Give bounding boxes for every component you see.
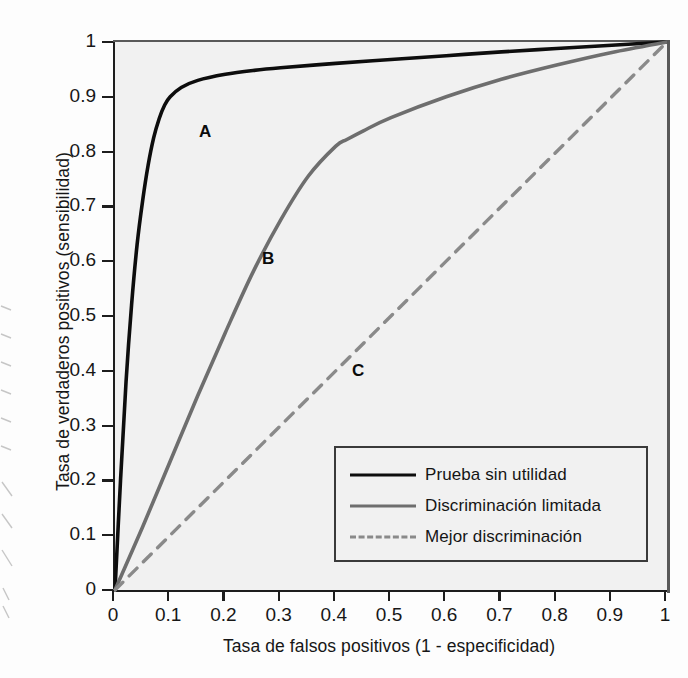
x-tick-label: 0 <box>83 604 143 626</box>
x-tick-mark <box>167 590 169 601</box>
y-tick-mark <box>102 534 113 536</box>
y-tick-mark <box>102 41 113 43</box>
y-tick-label: 0.4 <box>22 359 96 381</box>
y-tick-label: 0.1 <box>22 523 96 545</box>
y-tick-mark <box>102 315 113 317</box>
y-tick-label: 0.7 <box>22 194 96 216</box>
x-tick-mark <box>609 590 611 601</box>
x-tick-mark <box>112 590 114 601</box>
y-tick-label: 0.8 <box>22 140 96 162</box>
x-tick-mark <box>664 590 666 601</box>
y-tick-mark <box>102 151 113 153</box>
x-tick-mark <box>278 590 280 601</box>
legend-label: Discriminación limitada <box>425 496 601 516</box>
chart-legend: Prueba sin utilidad Discriminación limit… <box>334 446 648 562</box>
roc-chart-figure: Tasa de verdaderos positivos (sensibilid… <box>0 0 688 678</box>
legend-swatch-dashed-gray-icon <box>350 530 416 544</box>
y-tick-mark <box>102 205 113 207</box>
page-scan-artifacts <box>0 300 14 630</box>
y-tick-label: 0.5 <box>22 304 96 326</box>
y-tick-label: 0.3 <box>22 414 96 436</box>
y-tick-label: 1 <box>22 30 96 52</box>
x-tick-label: 1 <box>635 604 688 626</box>
x-tick-label: 0.3 <box>249 604 309 626</box>
x-tick-mark <box>222 590 224 601</box>
legend-swatch-solid-black-icon <box>350 468 416 482</box>
legend-label: Mejor discriminación <box>425 527 582 547</box>
x-tick-label: 0.8 <box>525 604 585 626</box>
x-tick-label: 0.1 <box>138 604 198 626</box>
x-tick-mark <box>388 590 390 601</box>
y-tick-label: 0.2 <box>22 468 96 490</box>
y-tick-mark <box>102 96 113 98</box>
x-tick-label: 0.5 <box>359 604 419 626</box>
y-tick-mark <box>102 479 113 481</box>
legend-item: Prueba sin utilidad <box>336 459 646 490</box>
x-tick-label: 0.9 <box>580 604 640 626</box>
curve-annotation-C: C <box>345 361 371 381</box>
y-tick-mark <box>102 425 113 427</box>
x-tick-label: 0.6 <box>414 604 474 626</box>
legend-label: Prueba sin utilidad <box>425 465 567 485</box>
legend-item: Discriminación limitada <box>336 490 646 521</box>
legend-item: Mejor discriminación <box>336 521 646 552</box>
x-tick-mark <box>498 590 500 601</box>
curve-annotation-B: B <box>255 249 281 269</box>
x-tick-label: 0.7 <box>469 604 529 626</box>
y-tick-label: 0 <box>22 578 96 600</box>
legend-swatch-solid-gray-icon <box>350 499 416 513</box>
y-tick-mark <box>102 260 113 262</box>
y-tick-label: 0.9 <box>22 85 96 107</box>
curve-annotation-A: A <box>192 122 218 142</box>
x-tick-mark <box>333 590 335 601</box>
x-tick-mark <box>443 590 445 601</box>
x-tick-label: 0.2 <box>193 604 253 626</box>
x-tick-mark <box>554 590 556 601</box>
x-axis-title: Tasa de falsos positivos (1 - especifici… <box>113 636 665 657</box>
x-tick-label: 0.4 <box>304 604 364 626</box>
y-tick-mark <box>102 589 113 591</box>
y-tick-mark <box>102 370 113 372</box>
y-tick-label: 0.6 <box>22 249 96 271</box>
